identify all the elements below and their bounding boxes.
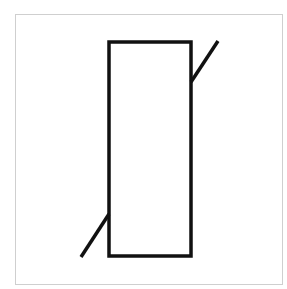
diagonal-line-lower xyxy=(81,214,109,257)
diagram-canvas xyxy=(0,0,287,289)
resistor-body xyxy=(109,42,191,256)
diagonal-line-upper xyxy=(191,41,218,82)
